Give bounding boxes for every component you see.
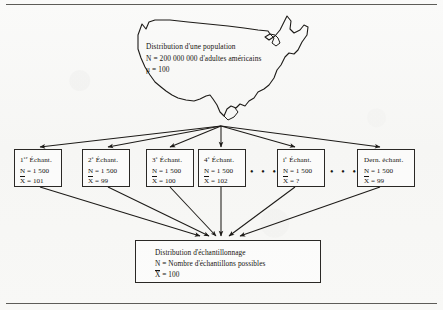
- sample-box-last[interactable]: Dern. échant. N = 1 500 X = 99: [357, 149, 415, 187]
- sample-box-last-n: N = 1 500: [364, 166, 414, 176]
- sample-box-4-title: 4e Échant.: [204, 153, 245, 166]
- page-top-rule: [6, 4, 437, 5]
- sampling-distribution-mean: X = 100: [155, 269, 320, 280]
- page-bottom-rule: [6, 303, 437, 304]
- sample-box-4-n: N = 1 500: [204, 166, 245, 176]
- population-mean: μ = 100: [146, 64, 346, 76]
- figure-page: Distribution d'une population N = 200 00…: [0, 0, 443, 310]
- sample-box-1-title: 1er Échant.: [20, 153, 61, 166]
- sample-box-4[interactable]: 4e Échant. N = 1 500 X = 102: [198, 149, 246, 187]
- sample-box-3-n: N = 1 500: [152, 166, 193, 176]
- sampling-distribution-count: N = Nombre d'échantillons possibles: [155, 258, 320, 269]
- sample-box-1-n: N = 1 500: [20, 166, 61, 176]
- sample-box-i-title: ie Échant.: [283, 153, 324, 166]
- sample-box-2-mean: X = 99: [88, 176, 129, 186]
- sample-box-last-title: Dern. échant.: [364, 153, 414, 166]
- sample-box-3-title: 3e Échant.: [152, 153, 193, 166]
- sample-box-i-mean: X = ?: [283, 176, 324, 186]
- sampling-distribution-title: Distribution d'échantillonnage: [155, 247, 320, 258]
- population-size: N = 200 000 000 d'adultes américains: [146, 53, 346, 65]
- sample-box-2-title: 2e Échant.: [88, 153, 129, 166]
- population-label-group: Distribution d'une population N = 200 00…: [146, 41, 346, 76]
- sample-box-3-mean: X = 100: [152, 176, 193, 186]
- samples-to-distribution-arrows: [40, 187, 380, 236]
- ellipsis-2: • • •: [330, 167, 359, 177]
- sample-box-1-mean: X = 101: [20, 176, 61, 186]
- population-title: Distribution d'une population: [146, 41, 346, 53]
- ellipsis-1: • • •: [250, 167, 279, 177]
- sample-box-i[interactable]: ie Échant. N = 1 500 X = ?: [277, 149, 325, 187]
- sample-box-i-n: N = 1 500: [283, 166, 324, 176]
- sampling-distribution-box[interactable]: Distribution d'échantillonnage N = Nombr…: [135, 240, 321, 283]
- sample-box-4-mean: X = 102: [204, 176, 245, 186]
- sample-box-last-mean: X = 99: [364, 176, 414, 186]
- sample-box-1[interactable]: 1er Échant. N = 1 500 X = 101: [14, 149, 62, 187]
- sample-box-2[interactable]: 2e Échant. N = 1 500 X = 99: [82, 149, 130, 187]
- sample-box-3[interactable]: 3e Échant. N = 1 500 X = 100: [146, 149, 194, 187]
- sample-box-2-n: N = 1 500: [88, 166, 129, 176]
